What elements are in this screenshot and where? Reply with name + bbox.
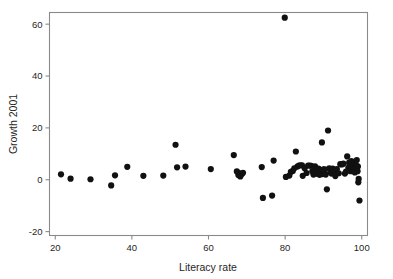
y-tick-label: 0 <box>37 174 42 185</box>
x-tick-label: 20 <box>50 242 61 253</box>
data-point <box>271 157 277 163</box>
data-point <box>356 176 362 182</box>
data-point <box>354 157 360 163</box>
data-point <box>344 153 350 159</box>
y-axis-tick-labels: -200204060 <box>29 19 43 237</box>
plot-frame <box>50 13 368 236</box>
scatter-plot-figure: 20406080100 -200204060 Literacy rate Gro… <box>0 0 393 279</box>
data-point <box>140 173 146 179</box>
data-point <box>58 171 64 177</box>
y-tick-label: 60 <box>32 19 43 30</box>
y-tick-label: -20 <box>29 226 43 237</box>
data-point <box>269 192 275 198</box>
data-point <box>67 176 73 182</box>
data-point <box>355 163 361 169</box>
x-axis-tick-labels: 20406080100 <box>50 242 370 253</box>
data-point <box>325 127 331 133</box>
data-point <box>336 170 342 176</box>
data-point <box>124 164 130 170</box>
data-point <box>293 148 299 154</box>
data-point <box>87 176 93 182</box>
data-point <box>324 186 330 192</box>
x-tick-label: 100 <box>354 242 370 253</box>
x-axis-ticks <box>55 236 362 240</box>
data-point <box>282 15 288 21</box>
data-point <box>172 142 178 148</box>
data-points-layer <box>58 15 363 204</box>
data-point <box>260 195 266 201</box>
data-point <box>356 197 362 203</box>
data-point <box>259 164 265 170</box>
data-point <box>160 173 166 179</box>
x-tick-label: 40 <box>127 242 138 253</box>
data-point <box>112 172 118 178</box>
data-point <box>240 170 246 176</box>
x-tick-label: 80 <box>280 242 291 253</box>
y-tick-label: 40 <box>32 70 43 81</box>
plot-canvas: 20406080100 -200204060 Literacy rate Gro… <box>0 0 393 279</box>
data-point <box>108 182 114 188</box>
y-tick-label: 20 <box>32 122 43 133</box>
x-axis-title: Literacy rate <box>179 261 237 273</box>
y-axis-title: Growth 2001 <box>7 94 19 154</box>
x-tick-label: 60 <box>203 242 214 253</box>
data-point <box>174 164 180 170</box>
data-point <box>319 139 325 145</box>
data-point <box>340 161 346 167</box>
data-point <box>231 152 237 158</box>
data-point <box>303 170 309 176</box>
y-axis-ticks <box>46 24 50 231</box>
data-point <box>182 163 188 169</box>
data-point <box>208 166 214 172</box>
